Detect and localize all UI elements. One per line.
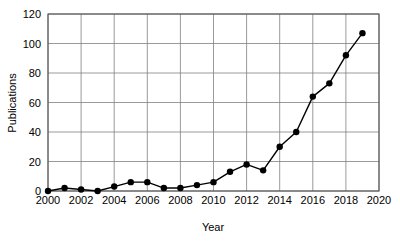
data-point-marker — [111, 183, 117, 189]
x-tick-label: 2016 — [301, 194, 325, 206]
data-point-marker — [277, 144, 283, 150]
x-tick-label: 2006 — [135, 194, 159, 206]
data-point-marker — [144, 179, 150, 185]
data-point-marker — [177, 185, 183, 191]
x-tick-label: 2020 — [367, 194, 391, 206]
data-point-marker — [359, 30, 365, 36]
data-point-marker — [210, 179, 216, 185]
publications-line-chart: 2000200220042006200820102012201420162018… — [0, 0, 400, 242]
y-tick-label: 0 — [35, 185, 41, 197]
data-point-marker — [310, 93, 316, 99]
y-tick-label: 120 — [23, 8, 41, 20]
data-point-marker — [61, 185, 67, 191]
x-tick-label: 2012 — [234, 194, 258, 206]
data-point-marker — [326, 80, 332, 86]
y-axis-title: Publications — [6, 73, 18, 133]
data-point-marker — [260, 167, 266, 173]
data-point-marker — [194, 182, 200, 188]
x-tick-label: 2018 — [334, 194, 358, 206]
data-point-marker — [343, 52, 349, 58]
data-point-marker — [128, 179, 134, 185]
x-tick-label: 2008 — [168, 194, 192, 206]
data-point-marker — [78, 186, 84, 192]
x-tick-label: 2010 — [201, 194, 225, 206]
x-axis-title: Year — [202, 221, 225, 233]
data-point-marker — [243, 161, 249, 167]
data-point-marker — [45, 188, 51, 194]
x-tick-label: 2002 — [69, 194, 93, 206]
x-tick-label: 2004 — [102, 194, 126, 206]
data-point-marker — [161, 185, 167, 191]
data-point-marker — [227, 169, 233, 175]
chart-figure: 2000200220042006200820102012201420162018… — [0, 0, 400, 242]
y-tick-label: 60 — [29, 97, 41, 109]
x-axis-tick-labels: 2000200220042006200820102012201420162018… — [36, 194, 391, 206]
y-tick-label: 80 — [29, 67, 41, 79]
data-point-marker — [94, 188, 100, 194]
y-tick-label: 100 — [23, 38, 41, 50]
x-tick-label: 2014 — [267, 194, 291, 206]
y-tick-label: 40 — [29, 126, 41, 138]
y-tick-label: 20 — [29, 156, 41, 168]
data-point-marker — [293, 129, 299, 135]
